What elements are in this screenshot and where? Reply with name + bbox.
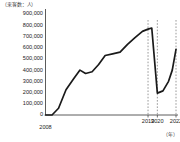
- x-tick-label: 2008: [39, 124, 51, 131]
- visitor-count-line-chart: （来客数：人） （年） 900,000800,000700,000600,000…: [0, 0, 180, 142]
- series-line-来客数: [46, 28, 177, 115]
- x-tick-label: 2020: [151, 118, 163, 125]
- x-tick-label: 2022: [170, 118, 180, 125]
